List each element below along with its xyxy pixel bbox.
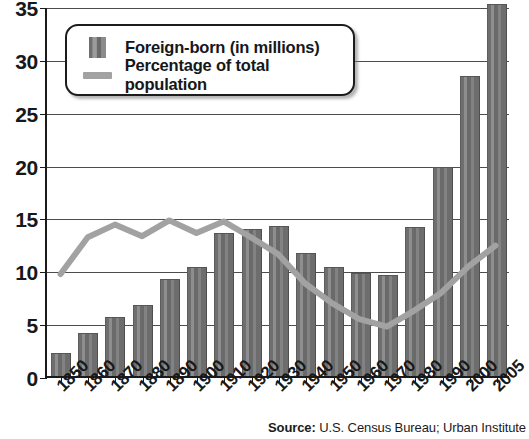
- y-tick-label: 35: [0, 0, 38, 19]
- y-tick-label: 0: [0, 368, 38, 389]
- y-tick-label: 15: [0, 209, 38, 230]
- y-tick-mark: [40, 114, 47, 115]
- y-tick-label: 10: [0, 262, 38, 283]
- source-note: Source: U.S. Census Bureau; Urban Instit…: [268, 420, 526, 435]
- y-tick-label: 30: [0, 50, 38, 71]
- source-prefix: Source:: [268, 420, 316, 435]
- y-tick-mark: [40, 219, 47, 220]
- y-tick-mark: [40, 325, 47, 326]
- legend-label-percentage: Percentage of total population: [125, 56, 353, 94]
- line-swatch-icon: [83, 72, 112, 79]
- y-tick-mark: [40, 272, 47, 273]
- y-tick-mark: [40, 167, 47, 168]
- y-tick-mark: [40, 8, 47, 9]
- y-tick-label: 20: [0, 156, 38, 177]
- legend: Foreign-born (in millions) Percentage of…: [65, 24, 355, 96]
- y-tick-mark: [40, 378, 47, 379]
- percentage-line: [61, 220, 496, 326]
- legend-item-percentage: Percentage of total population: [67, 61, 353, 89]
- y-axis: 05101520253035: [0, 0, 38, 439]
- bar-swatch-icon: [89, 37, 106, 58]
- y-tick-mark: [40, 61, 47, 62]
- legend-label-foreign-born: Foreign-born (in millions): [125, 38, 320, 57]
- source-text: U.S. Census Bureau; Urban Institute: [316, 420, 526, 435]
- y-tick-label: 25: [0, 103, 38, 124]
- y-tick-label: 5: [0, 315, 38, 336]
